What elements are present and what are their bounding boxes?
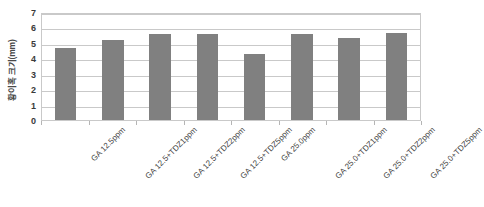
y-axis-tick-label: 7	[31, 9, 36, 18]
x-axis-tick-label: GA 12.5+TDZ2ppm	[192, 126, 247, 181]
x-axis-tick-mark	[231, 121, 232, 125]
bar-slot	[89, 14, 136, 120]
x-axis-tick-label: GA 25.0+TDZ1ppm	[335, 126, 390, 181]
bar[interactable]	[197, 34, 219, 120]
y-axis-title: 황이혹 크기(mm)	[4, 18, 18, 122]
x-axis-tick-mark	[184, 121, 185, 125]
bar[interactable]	[244, 54, 266, 120]
x-axis-tick-mark	[421, 121, 422, 125]
x-axis-tick-mark	[326, 121, 327, 125]
bar-slot	[42, 14, 89, 120]
x-axis-tick-mark	[279, 121, 280, 125]
x-axis-tick-marks	[41, 121, 421, 125]
x-axis-tick-labels: GA 12.5ppmGA 12.5+TDZ1ppmGA 12.5+TDZ2ppm…	[41, 126, 421, 190]
y-axis-tick-label: 6	[31, 24, 36, 33]
y-axis-tick-label: 4	[31, 55, 36, 64]
y-axis-tick-label: 5	[31, 39, 36, 48]
x-axis-tick-mark	[41, 121, 42, 125]
bar-slot	[231, 14, 278, 120]
bar-slot	[137, 14, 184, 120]
y-axis-title-text: 황이혹 크기(mm)	[5, 39, 17, 100]
bar-slot	[278, 14, 325, 120]
bar[interactable]	[102, 40, 124, 120]
bar[interactable]	[291, 34, 313, 120]
x-axis-tick-label: GA 25.0+TDZ5ppm	[430, 126, 484, 181]
x-axis-tick-label: GA 12.5ppm	[90, 126, 127, 163]
y-axis-tick-label: 2	[31, 86, 36, 95]
y-axis-tick-label: 0	[31, 117, 36, 126]
bar[interactable]	[386, 33, 408, 120]
bar[interactable]	[338, 38, 360, 120]
x-axis-tick-mark	[374, 121, 375, 125]
bar[interactable]	[149, 34, 171, 120]
x-axis-tick-mark	[89, 121, 90, 125]
bar-slot	[326, 14, 373, 120]
bars-container	[42, 14, 420, 120]
y-axis-tick-label: 1	[31, 101, 36, 110]
x-axis-tick-mark	[136, 121, 137, 125]
x-axis-tick-label: GA 12.5+TDZ1ppm	[145, 126, 200, 181]
y-axis-tick-label: 3	[31, 70, 36, 79]
bar-slot	[373, 14, 420, 120]
plot-area	[41, 13, 421, 121]
x-axis-tick-label: GA 25.0+TDZ2ppm	[382, 126, 437, 181]
bar-slot	[184, 14, 231, 120]
bar[interactable]	[55, 48, 77, 121]
y-axis-tick-labels: 76543210	[20, 13, 38, 121]
